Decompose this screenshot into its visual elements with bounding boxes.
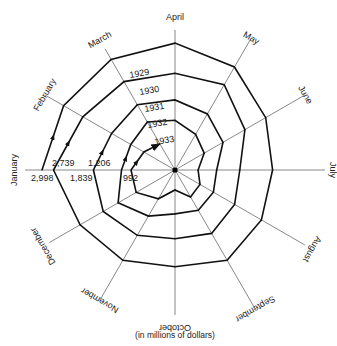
point-1929-january — [41, 169, 42, 170]
point-1930-january — [53, 169, 54, 170]
point-1931-march — [137, 104, 138, 105]
year-label-1931: 1931 — [144, 101, 165, 114]
january-value-1930: 2,739 — [52, 158, 75, 168]
point-1932-february — [130, 144, 131, 145]
point-1930-august — [234, 204, 235, 205]
month-label-september: September — [234, 294, 277, 325]
point-1931-may — [207, 113, 208, 114]
point-1932-may — [195, 134, 196, 135]
point-1933-january — [130, 169, 131, 170]
year-label-1930: 1930 — [139, 84, 160, 97]
point-1931-february — [111, 133, 112, 134]
unit-note: (in millions of dollars) — [135, 330, 215, 340]
axis-september — [175, 170, 255, 309]
month-label-june: June — [296, 84, 314, 106]
point-1931-april — [174, 99, 175, 100]
point-1929-november — [122, 260, 123, 261]
spiral-1933 — [131, 144, 160, 170]
point-1929-december — [80, 224, 81, 225]
point-1930-june — [244, 129, 245, 130]
january-value-1932: 1,206 — [88, 158, 111, 168]
axis-june — [175, 95, 305, 170]
spiral-1932 — [122, 120, 205, 199]
point-1929-august — [261, 219, 262, 220]
point-1929-june — [265, 117, 266, 118]
point-1930-december — [103, 211, 104, 212]
point-1929-april — [174, 43, 175, 44]
point-1929-february — [63, 105, 64, 106]
month-label-february: February — [31, 76, 58, 113]
point-1931-june — [222, 142, 223, 143]
point-1929-july — [272, 169, 273, 170]
point-1931-october — [174, 213, 175, 214]
point-1930-october — [174, 238, 175, 239]
point-1930-july — [239, 169, 240, 170]
point-1931-july — [216, 169, 217, 170]
point-1930-march — [123, 81, 124, 82]
point-1930-february — [82, 116, 83, 117]
year-label-1933: 1933 — [154, 134, 175, 147]
year-label-1932: 1932 — [147, 117, 168, 130]
point-1932-april — [174, 120, 175, 121]
point-1929-may — [234, 66, 235, 67]
center-dot — [172, 167, 177, 172]
january-value-1929: 2,998 — [31, 173, 54, 183]
january-value-1931: 1,839 — [70, 173, 93, 183]
point-1930-september — [211, 233, 212, 234]
point-1932-august — [199, 184, 200, 185]
point-1932-july — [197, 169, 198, 170]
month-label-march: March — [86, 29, 113, 50]
point-1930-november — [137, 235, 138, 236]
point-1932-september — [190, 196, 191, 197]
point-1932-november — [158, 198, 159, 199]
point-1929-march — [111, 59, 112, 60]
axis-december — [49, 170, 175, 243]
point-1932-october — [174, 189, 175, 190]
month-label-november: November — [79, 286, 120, 315]
point-1931-august — [213, 192, 214, 193]
point-1931-january — [93, 169, 94, 170]
month-label-january: January — [9, 153, 19, 186]
month-label-august: August — [301, 235, 324, 265]
month-label-april: April — [166, 12, 184, 22]
axis-august — [175, 170, 305, 245]
point-1932-january — [121, 169, 122, 170]
spiral-chart: JanuaryFebruaryMarchAprilMayJuneJulyAugu… — [0, 0, 337, 346]
point-1932-december — [136, 192, 137, 193]
month-label-december: December — [28, 226, 57, 267]
point-1930-may — [224, 84, 225, 85]
month-label-may: May — [241, 29, 261, 46]
point-1929-october — [174, 266, 175, 267]
point-1931-december — [118, 202, 119, 203]
point-1931-november — [148, 216, 149, 217]
month-label-july: July — [328, 162, 337, 179]
point-1933-february — [143, 151, 144, 152]
point-1931-september — [198, 210, 199, 211]
point-1932-june — [204, 153, 205, 154]
point-1929-september — [227, 260, 228, 261]
january-value-1933: 992 — [123, 173, 138, 183]
point-1930-april — [174, 73, 175, 74]
